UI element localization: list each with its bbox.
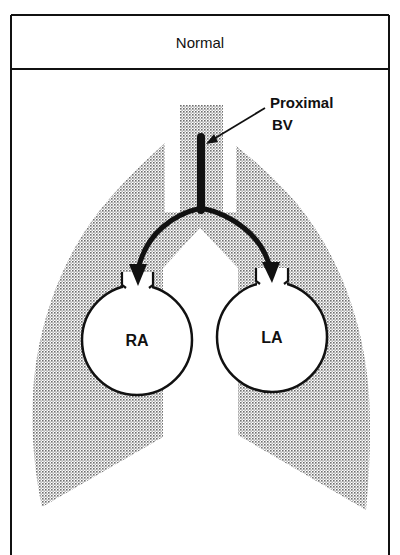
panel-title: Normal xyxy=(176,34,224,51)
annotation-label-line2: BV xyxy=(272,116,293,133)
diagram-canvas: Normal RA LA Proximal BV xyxy=(0,0,400,555)
label-ra: RA xyxy=(125,332,149,349)
label-la: LA xyxy=(261,329,283,346)
annotation-label-line1: Proximal xyxy=(270,94,333,111)
